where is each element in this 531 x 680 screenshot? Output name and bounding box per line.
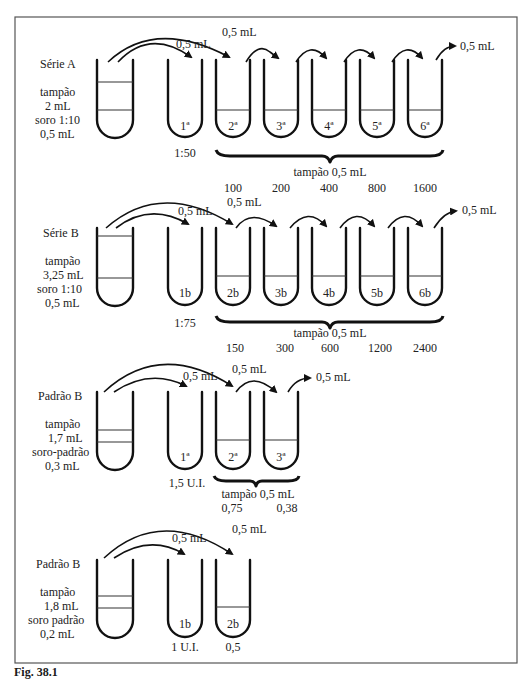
series-b-source-line2: 3,25 mL [43,268,84,282]
standard-b2-title: Padrão B [36,557,80,571]
standard-b1-source-tube [97,392,133,470]
series-b-transfer-label-2: 0,5 mL [227,195,262,209]
standard-b1-value-2: 0,38 [277,501,298,515]
series-a: Série A tampão 2 mL soro 1:10 0,5 mL 1ª … [35,25,495,195]
standard-b1-tube-1-label: 1ª [180,450,190,464]
series-b-tube-3-label: 3b [275,286,287,300]
standard-b2-value-2: 0,5 [226,640,241,654]
series-b-tube-1-label: 1b [179,286,191,300]
series-a-tube-4-label: 4ª [324,119,334,133]
series-a-discard-label: 0,5 mL [460,39,495,53]
series-b-titer-1: 150 [226,341,244,355]
standard-b2-source-line3: soro padrão [28,613,84,627]
series-a-source-line1: tampão [40,85,75,99]
standard-b2-transfer-label-1: 0,5 mL [172,531,207,545]
series-a-source-tube [97,60,133,138]
series-b-transfer-label-1: 0,5 mL [178,204,213,218]
standard-b1-title: Padrão B [38,389,82,403]
standard-b1-tube-3-label: 3ª [276,450,286,464]
standard-b1-discard-label: 0,5 mL [316,370,351,384]
series-b: Série B tampão 3,25 mL soro 1:10 0,5 mL … [37,195,497,355]
series-a-titer-5: 1600 [413,181,437,195]
series-a-title: Série A [40,57,76,71]
series-a-brace [216,150,443,162]
series-b-titer-3: 600 [321,341,339,355]
series-b-discard-label: 0,5 mL [462,203,497,217]
standard-b1-buffer-label: tampão 0,5 mL [222,487,295,501]
figure-caption: Fig. 38.1 [14,665,58,680]
standard-b1-brace [214,476,299,486]
standard-b-series-1: Padrão B tampão 1,7 mL soro-padrão 0,3 m… [32,362,351,515]
series-b-tube-2-label: 2b [227,286,239,300]
series-b-tube-4-label: 4b [323,286,335,300]
standard-b1-value-1: 0,75 [222,501,243,515]
series-a-tube-3-label: 3ª [276,119,286,133]
series-b-buffer-label: tampão 0,5 mL [294,326,367,340]
series-a-first-dilution: 1:50 [174,146,195,160]
series-b-titer-4: 1200 [368,341,392,355]
series-a-tube-5-label: 5ª [372,119,382,133]
standard-b2-tube-1-label: 1b [179,617,191,631]
series-b-title: Série B [43,226,79,240]
standard-b1-tube-2-label: 2ª [228,450,238,464]
series-a-tube-1-label: 1ª [180,119,190,133]
standard-b2-source-line2: 1,8 mL [44,599,79,613]
series-b-source-line4: 0,5 mL [45,296,80,310]
standard-b1-transfer-label-1: 0,5 mL [183,369,218,383]
series-a-source-line2: 2 mL [45,99,71,113]
series-b-source-tube [97,228,133,306]
series-a-source-line4: 0,5 mL [40,127,75,141]
standard-b2-source-tube [97,560,133,638]
series-b-titer-2: 300 [276,341,294,355]
series-a-transfer-label-1: 0,5 mL [176,37,211,51]
standard-b1-source-line3: soro-padrão [32,445,89,459]
standard-b2-source-line4: 0,2 mL [40,627,75,641]
series-b-tube-6-label: 6b [419,286,431,300]
standard-b1-source-line4: 0,3 mL [45,459,80,473]
standard-b1-source-line2: 1,7 mL [48,431,83,445]
standard-b1-first-value: 1,5 U.I. [169,476,206,490]
standard-b2-value-1: 1 U.I. [171,640,199,654]
series-b-source-line1: tampão [45,254,80,268]
series-a-titer-3: 400 [320,181,338,195]
standard-b1-transfer-label-2: 0,5 mL [232,362,267,376]
standard-b2-transfer-label-2: 0,5 mL [232,522,267,536]
series-a-titer-1: 100 [224,181,242,195]
series-a-transfer-label-2: 0,5 mL [222,25,257,39]
standard-b2-tube-2-label: 2b [227,617,239,631]
series-a-buffer-label: tampão 0,5 mL [294,165,367,179]
series-a-titer-2: 200 [272,181,290,195]
standard-b1-source-line1: tampão [45,417,80,431]
series-b-source-line3: soro 1:10 [37,282,82,296]
series-b-first-dilution: 1:75 [174,316,195,330]
standard-b2-source-line1: tampão [40,585,75,599]
series-a-titer-4: 800 [368,181,386,195]
series-b-titer-5: 2400 [413,341,437,355]
series-a-tube-6-label: 6ª [420,119,430,133]
series-a-tube-2-label: 2ª [228,119,238,133]
series-b-tube-5-label: 5b [371,286,383,300]
series-a-source-line3: soro 1:10 [35,113,80,127]
standard-b-series-2: Padrão B tampão 1,8 mL soro padrão 0,2 m… [28,522,267,654]
